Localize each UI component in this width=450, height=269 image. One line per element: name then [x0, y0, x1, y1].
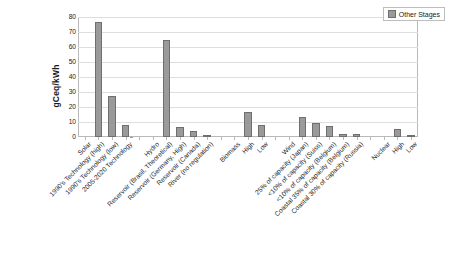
x-axis-label: High [391, 141, 405, 155]
y-axis-tick-50: 50 [54, 59, 76, 66]
x-axis-tick-labels: Solar1990's Technology (high)1990's Tech… [78, 141, 418, 269]
bar[interactable] [258, 125, 265, 137]
bar-slot [105, 17, 119, 137]
y-axis-tick-10: 10 [54, 119, 76, 126]
bar-series-other-stages [78, 17, 418, 137]
bar-slot [255, 17, 269, 137]
bar-slot [132, 17, 146, 137]
bar-slot [119, 17, 133, 137]
x-axis-label: Biomass [219, 141, 242, 164]
x-axis-label: High [241, 141, 255, 155]
bar-slot [160, 17, 174, 137]
bar-slot [214, 17, 228, 137]
legend-label-other-stages: Other Stages [399, 11, 440, 18]
bar-slot [391, 17, 405, 137]
bar-slot [377, 17, 391, 137]
bar-slot [228, 17, 242, 137]
bar-slot [187, 17, 201, 137]
bar-slot [78, 17, 92, 137]
bar-slot [200, 17, 214, 137]
bar-slot [404, 17, 418, 137]
y-axis-tick-labels: 80706050403020100 [54, 11, 76, 143]
bar[interactable] [95, 22, 102, 137]
bar-slot [296, 17, 310, 137]
x-axis-label: Low [256, 141, 269, 154]
chart-legend: Other Stages [383, 7, 445, 21]
bar[interactable] [312, 123, 319, 137]
bar[interactable] [108, 96, 115, 137]
bar-slot [92, 17, 106, 137]
bar-slot [268, 17, 282, 137]
y-axis-tick-30: 30 [54, 89, 76, 96]
bar-slot [323, 17, 337, 137]
bar[interactable] [163, 40, 170, 137]
x-axis-label: Low [406, 141, 419, 154]
bar[interactable] [122, 125, 129, 137]
bar-slot [350, 17, 364, 137]
bar-chart: gCeq/kWh 80706050403020100 Solar1990's T… [0, 0, 450, 269]
y-axis-tick-40: 40 [54, 74, 76, 81]
bar-slot [282, 17, 296, 137]
bar[interactable] [176, 127, 183, 137]
bar-slot [173, 17, 187, 137]
bar-slot [309, 17, 323, 137]
bar[interactable] [299, 117, 306, 137]
bar[interactable] [244, 112, 251, 137]
bar-slot [336, 17, 350, 137]
bar-slot [363, 17, 377, 137]
y-axis-tick-0: 0 [54, 134, 76, 141]
bar[interactable] [326, 126, 333, 137]
bar[interactable] [394, 129, 401, 137]
x-axis-label: Nuclear [371, 141, 392, 162]
y-axis-tick-80: 80 [54, 14, 76, 21]
legend-swatch-icon [388, 10, 396, 18]
bar-slot [241, 17, 255, 137]
plot-area [78, 17, 418, 137]
bar-slot [146, 17, 160, 137]
y-axis-tick-70: 70 [54, 29, 76, 36]
y-axis-tick-20: 20 [54, 104, 76, 111]
y-axis-tick-60: 60 [54, 44, 76, 51]
